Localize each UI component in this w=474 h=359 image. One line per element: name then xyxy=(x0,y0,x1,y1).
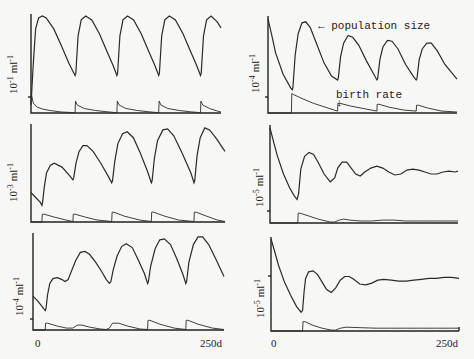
birth-rate-line xyxy=(31,93,221,113)
x-tick-label-start: 0 xyxy=(271,337,277,349)
panel-middle-right: 10-5ml-1 xyxy=(252,125,458,223)
population-size-line xyxy=(270,128,458,200)
birth-rate-line xyxy=(31,212,225,222)
birth-rate-line xyxy=(33,320,224,330)
y-axis-label: 10-3ml-1 xyxy=(6,163,19,202)
y-axis-label: 10-5ml-1 xyxy=(253,279,266,318)
birth-rate-arrow: ↓ xyxy=(336,97,343,109)
population-size-line xyxy=(33,237,224,311)
y-axis-label: 10-4ml-1 xyxy=(248,54,261,93)
panel-bottom-right: 10-5ml-1 0 250d xyxy=(253,237,459,349)
population-size-line xyxy=(31,16,221,105)
population-size-annotation: ← population size xyxy=(318,20,430,32)
y-axis xyxy=(271,237,459,331)
y-axis-label: 10-1ml-1 xyxy=(6,55,19,94)
x-tick-label-end: 250d xyxy=(200,337,223,349)
birth-rate-annotation: birth rate xyxy=(336,89,402,101)
x-tick-label-start: 0 xyxy=(35,337,41,349)
panel-middle-left: 10-3ml-1 xyxy=(6,124,225,222)
figure: 10-1ml-1 10-3ml-1 10-4ml-1 0 250d 10-4ml… xyxy=(0,0,474,359)
y-axis-label: 10-4ml-1 xyxy=(12,277,25,316)
population-size-line xyxy=(31,128,225,205)
birth-rate-line xyxy=(270,213,458,223)
y-axis-label: 10-5ml-1 xyxy=(252,168,265,207)
panel-top-right: 10-4ml-1 ← population size birth rate ↓ xyxy=(248,16,457,113)
y-axis xyxy=(31,14,221,113)
panel-bottom-left: 10-4ml-1 0 250d xyxy=(12,233,224,349)
y-axis xyxy=(33,233,224,330)
panel-top-left: 10-1ml-1 xyxy=(6,14,221,113)
birth-rate-line xyxy=(271,322,459,331)
population-size-line xyxy=(271,239,459,312)
x-tick-label-end: 250d xyxy=(436,337,459,349)
